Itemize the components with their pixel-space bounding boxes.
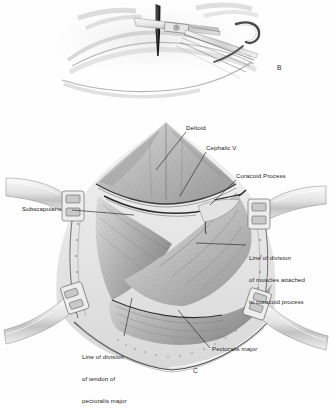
panel-b-illustration — [55, 4, 259, 97]
label-line-of-division-pectoralis: Line of division of tendon of pectoralis… — [82, 338, 127, 408]
label-coracoid-process: Coracoid Process — [236, 172, 286, 179]
label-subscapularis: Subscapularis — [22, 205, 62, 212]
label-deltoid: Deltoid — [186, 124, 206, 131]
label-line-1: Line of division — [82, 353, 127, 360]
label-line-2: of muscles attached — [249, 276, 305, 283]
label-cephalic-vein: Cephalic V. — [206, 144, 238, 151]
label-pectoralis-major: Pectoralis major — [212, 345, 257, 352]
retractor-left — [6, 178, 84, 221]
retractor-right — [248, 186, 326, 229]
label-line-3: pectoralis major — [82, 397, 127, 404]
label-line-of-division-coracoid: Line of division of muscles attached to … — [249, 239, 305, 320]
label-line-1: Line of division — [249, 254, 305, 261]
panel-letter-b: B — [277, 64, 281, 71]
panel-letter-c: C — [193, 367, 198, 374]
label-line-3: to coracoid process — [249, 298, 305, 305]
label-line-2: of tendon of — [82, 375, 127, 382]
